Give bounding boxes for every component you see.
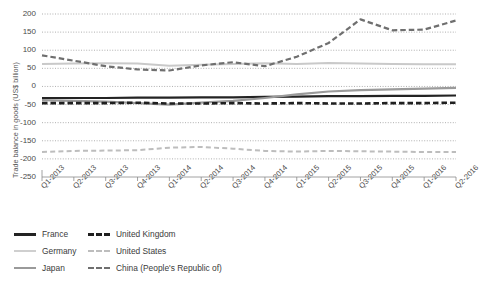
legend-item: China (People's Republic of) [88,260,222,276]
y-tick-label: -50 [8,100,36,109]
legend-swatch-icon [14,267,36,269]
series-line-united-kingdom [42,103,456,104]
y-tick-label: -200 [8,154,36,163]
y-tick-label: 100 [8,45,36,54]
series-line-united-states [42,147,456,152]
y-tick-label: -150 [8,136,36,145]
y-tick-label: 150 [8,27,36,36]
legend-swatch-icon [14,250,36,252]
chart-legend: FranceGermanyJapanUnited KingdomUnited S… [14,226,414,278]
legend-label: United Kingdom [116,230,176,238]
legend-swatch-icon [14,233,36,236]
legend-label: China (People's Republic of) [116,264,222,272]
y-tick-label: 0 [8,81,36,90]
legend-swatch-icon [88,267,110,269]
y-tick-label: 50 [8,63,36,72]
y-tick-label: -250 [8,172,36,181]
legend-swatch-icon [88,250,110,252]
legend-item: United States [88,243,166,259]
legend-label: United States [116,247,166,255]
legend-item: Germany [14,243,76,259]
legend-item: United Kingdom [88,226,176,242]
y-tick-label: 200 [8,9,36,18]
series-line-france [42,96,456,99]
legend-label: France [42,230,68,238]
legend-item: France [14,226,68,242]
legend-swatch-icon [88,233,110,236]
legend-label: Japan [42,264,65,272]
y-tick-label: -100 [8,118,36,127]
legend-item: Japan [14,260,65,276]
legend-label: Germany [42,247,76,255]
